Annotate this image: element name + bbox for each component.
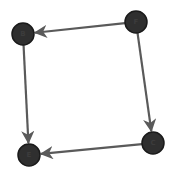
node-b: B	[12, 23, 34, 45]
node-e: E	[18, 144, 40, 166]
node-f: F	[125, 11, 147, 33]
edge-f-to-b	[35, 23, 125, 33]
node-label: E	[27, 151, 32, 159]
directed-graph: BFEC	[0, 0, 179, 183]
node-label: C	[150, 139, 155, 147]
edge-b-to-e	[24, 45, 29, 143]
node-c: C	[142, 132, 164, 154]
edge-layer	[24, 23, 152, 154]
node-label: B	[20, 30, 25, 38]
node-label: F	[134, 18, 139, 26]
edge-c-to-e	[41, 144, 142, 154]
node-layer: BFEC	[12, 11, 164, 166]
edge-f-to-c	[138, 33, 152, 131]
